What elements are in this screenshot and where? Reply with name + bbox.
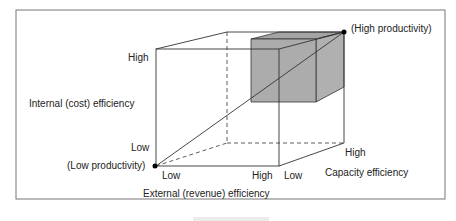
low-productivity-label: (Low productivity) — [67, 160, 145, 172]
caption-placeholder-bar — [193, 217, 269, 221]
horizontal-high-label: High — [252, 170, 273, 182]
depth-low-label: Low — [284, 170, 302, 182]
low-productivity-point — [153, 164, 158, 169]
vertical-high-label: High — [128, 52, 149, 64]
high-productivity-point — [342, 30, 347, 35]
high-productivity-subcube — [251, 32, 344, 102]
horizontal-low-label: Low — [162, 170, 180, 182]
high-productivity-label: (High productivity) — [351, 23, 432, 35]
horizontal-axis-label: External (revenue) efficiency — [143, 188, 270, 200]
vertical-low-label: Low — [131, 142, 149, 154]
depth-axis-label: Capacity efficiency — [325, 167, 408, 179]
depth-high-label: High — [345, 147, 366, 159]
vertical-axis-label: Internal (cost) efficiency — [29, 98, 134, 110]
